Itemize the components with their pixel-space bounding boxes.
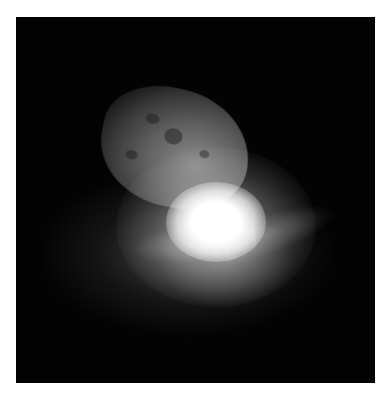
crater bbox=[199, 149, 210, 159]
ejecta-streak-right bbox=[206, 141, 375, 282]
crater bbox=[145, 112, 161, 125]
impact-flash bbox=[166, 182, 266, 262]
ejecta-streak-left bbox=[49, 174, 264, 321]
crater bbox=[125, 149, 139, 160]
comet-impact-photo bbox=[16, 17, 375, 383]
ejecta-haze bbox=[16, 77, 375, 383]
impact-flash-halo bbox=[116, 147, 316, 307]
ejecta-plume-lower bbox=[126, 227, 326, 377]
comet-nucleus bbox=[89, 75, 260, 222]
crater bbox=[163, 127, 184, 146]
